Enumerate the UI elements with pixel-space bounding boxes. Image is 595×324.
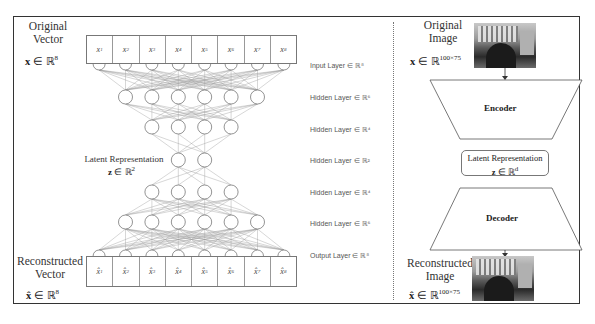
decoder-label: Decoder [486,213,518,223]
hidden-node [251,215,265,229]
math-dim: 100×75 [439,288,460,296]
vector-cell: x7 [245,36,271,63]
layer-label-hidden-1: Hidden Layer ∈ ℝ⁶ [310,94,370,102]
image-side-building [520,31,534,55]
latent-math: z ∈ ℝd [462,164,548,178]
hidden-node [198,215,212,229]
vector-cell: x8 [271,36,296,63]
original-image-title: Original Image [415,19,471,45]
network-edge [152,70,284,90]
hidden-node [224,215,238,229]
input-node [172,64,184,70]
vector-cell: x̂2 [113,257,139,286]
math-set: ∈ ℝ [31,290,55,301]
math-dim: 2 [132,165,136,173]
vector-cell: x̂5 [192,257,218,286]
hidden-node [145,215,159,229]
latent-title: Latent Representation [462,153,548,164]
title-line: Vector [14,268,86,281]
title-line: Image [415,32,471,45]
hidden-node [198,90,212,104]
hidden-node [198,185,212,199]
vector-cell: x̂3 [140,257,166,286]
math-set: ∈ ℝ [415,56,439,67]
vector-cell: x1 [87,36,113,63]
hidden-node [171,185,185,199]
vector-cell: x̂4 [166,257,192,286]
input-node [225,64,237,70]
title-line: Original [18,20,78,33]
reconstructed-vector-title: Reconstructed Vector [14,255,86,281]
network-edge [126,199,205,215]
hidden-node [224,120,238,134]
output-vector-cells: x̂1x̂2x̂3x̂4x̂5x̂6x̂7x̂8 [86,256,297,287]
layer-label-hidden-4: Hidden Layer ∈ ℝ⁴ [310,189,371,197]
math-dim: 8 [55,54,59,62]
network-edge [126,104,152,120]
network-edge [99,229,231,250]
arrowhead-icon [502,76,508,80]
math-set: ∈ ℝ [495,167,514,177]
image-building [478,26,518,42]
vector-cell: x3 [140,36,166,63]
vector-cell: x̂7 [245,257,271,286]
vector-cell: x̂6 [218,257,244,286]
layer-label-hidden-2: Hidden Layer ∈ ℝ⁴ [310,126,371,134]
reconstructed-image-thumbnail [472,256,534,301]
layer-label-hidden-3: Hidden Layer ∈ ℝ² [310,157,370,165]
input-node [278,64,290,70]
hidden-node [119,215,133,229]
original-vector-title: Original Vector [18,20,78,46]
layer-label-hidden-5: Hidden Layer ∈ ℝ⁶ [310,220,370,228]
image-side-building [518,264,532,288]
input-node [93,64,105,70]
output-image-math: x̂ ∈ ℝ100×75 [409,288,460,301]
title-line: Reconstructed [14,255,86,268]
hidden-node [251,90,265,104]
math-set: ∈ ℝ [112,167,132,177]
original-image-thumbnail [474,23,536,68]
encoder-label: Encoder [484,103,517,113]
hidden-node [171,215,185,229]
image-bridge-arch [486,43,516,68]
network-edge [152,167,178,185]
hidden-node [198,153,212,167]
hidden-node [224,90,238,104]
hidden-node [171,90,185,104]
vector-cell: x̂1 [87,257,113,286]
latent-representation-box: Latent Representation z ∈ ℝd [461,150,549,176]
math-dim: 8 [56,288,60,296]
input-vector-math: x ∈ ℝ8 [25,54,58,67]
title-line: Image [404,270,476,283]
vector-cell: x2 [113,36,139,63]
reconstructed-image-title: Reconstructed Image [404,257,476,283]
math-dim: d [515,165,519,173]
input-image-math: x ∈ ℝ100×75 [410,54,461,67]
network-edge [205,167,231,185]
vector-cell: x6 [218,36,244,63]
latent-math: z ∈ ℝ2 [108,165,135,177]
network-edge [231,199,257,215]
input-vector-cells: x1x2x3x4x5x6x7x8 [86,35,297,64]
network-edge [99,229,178,250]
title-line: Reconstructed [404,257,476,270]
hidden-node [119,90,133,104]
title-line: Original [415,19,471,32]
network-edge [231,104,257,120]
hidden-node [145,120,159,134]
vector-cell: x̂8 [271,257,296,286]
math-set: ∈ ℝ [30,56,54,67]
network-edge [178,104,257,120]
input-node [252,64,264,70]
input-node [199,64,211,70]
vector-cell: x5 [192,36,218,63]
layer-label-input: Input Layer ∈ ℝ⁸ [310,62,364,70]
hidden-node [224,185,238,199]
network-edge [205,134,231,153]
math-set: ∈ ℝ [414,290,438,301]
hidden-node [145,90,159,104]
image-building [476,259,516,275]
math-dim: 100×75 [440,54,461,62]
title-line: Vector [18,33,78,46]
hidden-node [145,185,159,199]
